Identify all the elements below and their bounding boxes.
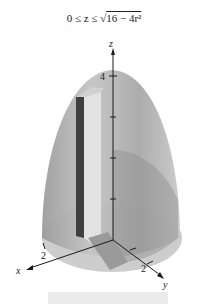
cutaway-light-face: [84, 92, 101, 250]
x-axis-label: x: [15, 265, 21, 276]
y-tick-label: 2: [141, 263, 146, 274]
z-tick-label: 4: [100, 71, 105, 82]
z-axis-label: z: [108, 38, 113, 49]
cutaway-dark-face: [76, 97, 84, 238]
caption-bar: [48, 292, 168, 304]
x-tick-label: 2: [41, 250, 46, 261]
y-axis-label: y: [162, 279, 168, 290]
